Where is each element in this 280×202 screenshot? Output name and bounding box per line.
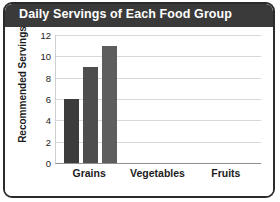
page-title: Daily Servings of Each Food Group [19,7,232,21]
y-axis-tick: 10 [31,51,51,62]
y-axis-tick-labels: 024681012 [31,27,51,196]
chart-body: Recommended Servings 024681012 GrainsVeg… [5,27,273,196]
plot-area [55,35,261,164]
grains-bar-2 [83,67,98,163]
bars-layer [56,35,261,163]
x-axis-tick: Grains [73,167,106,179]
chart-title-bar: Daily Servings of Each Food Group [5,4,273,27]
y-axis-tick: 8 [31,72,51,83]
y-axis-tick: 12 [31,30,51,41]
x-axis-tick: Vegetables [130,167,185,179]
y-axis-tick: 6 [31,94,51,105]
chart-card: Daily Servings of Each Food Group Recomm… [3,2,275,198]
x-axis-tick: Fruits [211,167,240,179]
grains-bar-3 [102,46,117,163]
y-axis-tick: 2 [31,136,51,147]
y-axis-title: Recommended Servings [17,25,28,145]
y-axis-tick: 0 [31,158,51,169]
x-axis-tick-labels: GrainsVegetablesFruits [55,167,260,185]
y-axis-tick: 4 [31,115,51,126]
grains-bar-1 [64,99,79,163]
